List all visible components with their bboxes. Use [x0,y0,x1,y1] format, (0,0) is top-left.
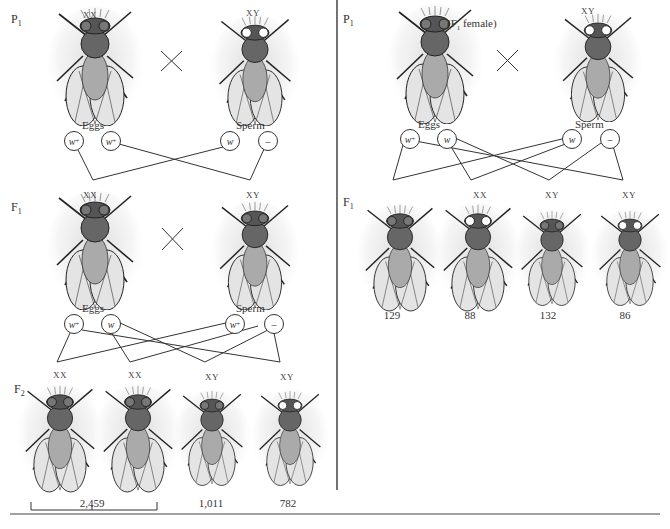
sperm-label: Sperm [575,118,604,130]
sex-label: XY [192,372,232,382]
egg-allele: w+ [101,131,121,151]
sex-label: XY [568,6,608,16]
sex-label: XY [609,190,649,200]
sperm-allele: w [220,131,240,151]
fly-right-f1-red-male [512,205,592,310]
fly-f2-female-1 [15,378,105,498]
right-p1-label: P1 [343,12,354,28]
egg-allele: w+ [64,314,84,334]
sex-label: XX [70,190,110,200]
sperm-allele: w [562,129,582,149]
sex-label: XX [115,370,155,380]
sex-label: XX [40,370,80,380]
fly-f2-male-white [250,385,330,490]
sperm-allele: – [258,131,278,151]
sex-label: XY [532,190,572,200]
sex-label: XY [233,190,273,200]
fly-right-p1-male [548,12,648,122]
count-red-females: 129 [362,309,422,321]
right-f1-label: F1 [343,195,354,211]
fly-left-p1-female [45,6,145,126]
left-f1-label: F1 [11,200,22,216]
sex-label: XY [233,8,273,18]
fly-left-f1-male [205,200,305,310]
fly-left-f1-female [45,190,145,310]
egg-allele: w+ [64,131,84,151]
sex-label: XX [70,10,110,20]
sex-label: XY [267,372,307,382]
egg-allele: w [437,129,457,149]
fly-left-p1-male [205,14,305,134]
egg-allele: w+ [400,129,420,149]
count-f2-females: 2,459 [62,497,122,509]
count-f2-red-males: 1,011 [181,497,241,509]
fly-f2-female-2 [93,378,183,498]
eggs-label: Eggs [82,302,104,314]
fly-right-f1-white-female [433,197,523,317]
count-f2-white-males: 782 [258,497,318,509]
fly-right-f1-red-female [355,197,445,317]
sperm-label: Sperm [236,302,265,314]
sperm-allele: – [600,129,620,149]
count-red-males: 132 [518,309,578,321]
fly-f2-male-red [172,385,252,490]
fly-right-f1-white-male [590,205,670,310]
left-p1-label: P1 [11,12,22,28]
sperm-label: Sperm [236,119,265,131]
sperm-allele: w+ [225,314,245,334]
egg-allele: w [101,314,121,334]
count-white-males: 86 [595,309,655,321]
eggs-label: Eggs [418,118,440,130]
f1-female-note: (F1 female) [447,17,497,32]
count-white-females: 88 [440,309,500,321]
sex-label: XX [460,190,500,200]
sperm-allele: – [264,314,284,334]
eggs-label: Eggs [82,119,104,131]
